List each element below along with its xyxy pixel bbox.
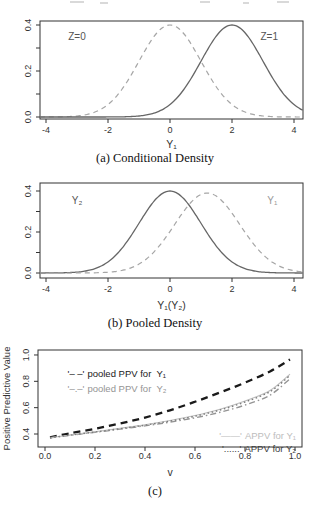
legend-label: APPV for Y₂ xyxy=(244,443,296,454)
x-tick-label: -2 xyxy=(104,125,112,135)
y-axis-label: Positive Predictive Value xyxy=(1,347,12,451)
legend-pooled-ppv-y2: '–.–'pooled PPV for Y₂ xyxy=(57,372,166,405)
x-tick-label: 0.6 xyxy=(189,451,202,461)
caption-c: (c) xyxy=(0,484,310,499)
y-tick-label: 0.4 xyxy=(23,185,33,198)
x-tick-label: 4 xyxy=(291,125,296,135)
conditional-density-plot: -4-20240.00.20.4Y₁Z=0Z=1 xyxy=(0,0,310,170)
x-tick-label: -4 xyxy=(42,284,50,294)
y-tick-label: 0.0 xyxy=(23,267,33,280)
x-tick-label: -4 xyxy=(42,125,50,135)
y-tick-label: 0.4 xyxy=(21,428,31,441)
x-tick-label: -2 xyxy=(104,284,112,294)
y-tick-label: 1.0 xyxy=(21,349,31,362)
x-axis-label: v xyxy=(167,466,173,478)
y-tick-label: 0.2 xyxy=(23,226,33,239)
annotation-Z=1: Z=1 xyxy=(260,31,278,42)
x-tick-label: 0.4 xyxy=(139,451,152,461)
legend-appv-y2: '......'APPV for Y₂ xyxy=(211,432,296,465)
x-axis-label: Y₁ xyxy=(166,138,177,150)
y-tick-label: 0.6 xyxy=(21,401,31,414)
annotation-Z=0: Z=0 xyxy=(68,31,86,42)
x-tick-label: 0.2 xyxy=(89,451,102,461)
x-axis-label: Y₁(Y₂) xyxy=(157,299,186,311)
annotation-Y₁: Y₁ xyxy=(267,195,278,206)
x-tick-label: 4 xyxy=(291,284,296,294)
x-tick-label: 2 xyxy=(229,284,234,294)
x-tick-label: 0 xyxy=(167,125,172,135)
caption-b: (b) Pooled Density xyxy=(0,316,310,331)
x-tick-label: 0.0 xyxy=(39,451,52,461)
caption-a: (a) Conditional Density xyxy=(0,151,310,166)
figure-container: -4-20240.00.20.4Y₁Z=0Z=1 -4-20240.00.20.… xyxy=(0,0,310,510)
y-tick-label: 0.4 xyxy=(23,19,33,32)
annotation-Y₂: Y₂ xyxy=(72,195,83,206)
y-tick-label: 0.0 xyxy=(23,111,33,124)
x-tick-label: 2 xyxy=(229,125,234,135)
y-tick-label: 0.2 xyxy=(23,65,33,78)
dotted-line-sample: '......' xyxy=(222,443,241,454)
dashdot-line-sample: '–.–' xyxy=(68,383,85,394)
y-tick-label: 0.8 xyxy=(21,375,31,388)
x-tick-label: 0 xyxy=(167,284,172,294)
pooled-density-plot: -4-20240.00.20.4Y₁(Y₂)Y₂Y₁ xyxy=(0,170,310,340)
legend-label: pooled PPV for Y₂ xyxy=(87,383,166,394)
